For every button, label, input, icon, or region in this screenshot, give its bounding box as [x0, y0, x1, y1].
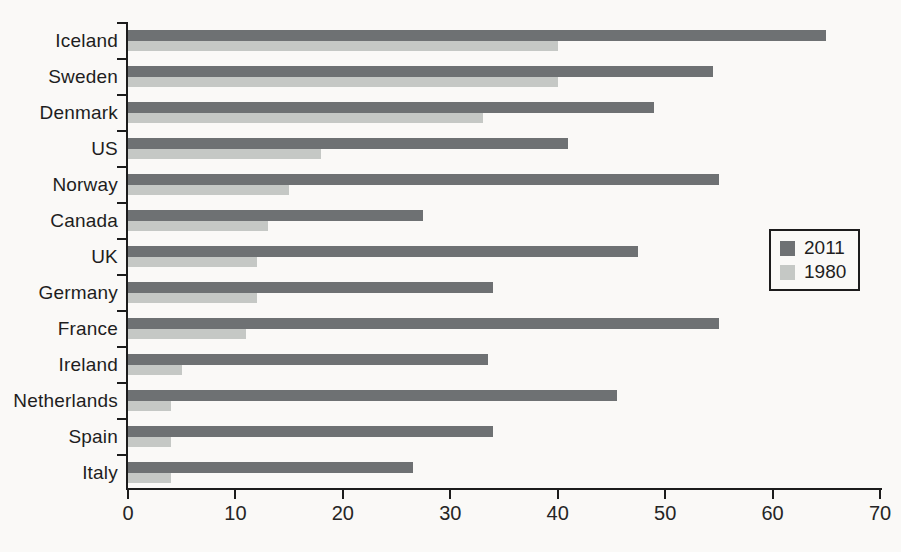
- bar-1980-ireland: [128, 365, 182, 375]
- x-axis-tick: [127, 490, 129, 499]
- bar-2011-iceland: [128, 30, 826, 41]
- category-label-norway: Norway: [0, 173, 118, 197]
- bar-1980-denmark: [128, 113, 483, 123]
- bar-2011-denmark: [128, 102, 654, 113]
- legend-label-1980: 1980: [804, 260, 846, 284]
- bar-1980-sweden: [128, 77, 558, 87]
- bar-2011-italy: [128, 462, 413, 473]
- x-axis-tick: [879, 490, 881, 499]
- bar-2011-sweden: [128, 66, 713, 77]
- y-axis-tick: [117, 454, 126, 456]
- legend-entry-2011: 2011: [780, 236, 846, 260]
- category-label-us: US: [0, 137, 118, 161]
- bar-2011-ireland: [128, 354, 488, 365]
- x-tick-label-60: 60: [761, 502, 783, 525]
- legend-swatch-1980: [780, 265, 795, 280]
- category-label-italy: Italy: [0, 461, 118, 485]
- bar-1980-netherlands: [128, 401, 171, 411]
- category-label-sweden: Sweden: [0, 65, 118, 89]
- bar-1980-france: [128, 329, 246, 339]
- bar-chart: IcelandSwedenDenmarkUSNorwayCanadaUKGerm…: [0, 0, 901, 552]
- y-axis-tick: [117, 310, 126, 312]
- category-label-netherlands: Netherlands: [0, 389, 118, 413]
- category-label-iceland: Iceland: [0, 29, 118, 53]
- y-axis-tick: [117, 382, 126, 384]
- bar-1980-canada: [128, 221, 268, 231]
- x-tick-label-10: 10: [224, 502, 246, 525]
- legend-entry-1980: 1980: [780, 260, 846, 284]
- x-axis-tick: [557, 490, 559, 499]
- x-tick-label-70: 70: [869, 502, 891, 525]
- x-tick-label-20: 20: [332, 502, 354, 525]
- y-axis-tick: [117, 22, 126, 24]
- y-axis-tick: [117, 94, 126, 96]
- bar-2011-spain: [128, 426, 493, 437]
- category-label-denmark: Denmark: [0, 101, 118, 125]
- bar-2011-norway: [128, 174, 719, 185]
- bar-1980-spain: [128, 437, 171, 447]
- category-label-germany: Germany: [0, 281, 118, 305]
- x-axis-tick: [772, 490, 774, 499]
- legend-swatch-2011: [780, 241, 795, 256]
- bar-2011-netherlands: [128, 390, 617, 401]
- x-axis-tick: [449, 490, 451, 499]
- x-tick-label-30: 30: [439, 502, 461, 525]
- bar-2011-us: [128, 138, 568, 149]
- y-axis-tick: [117, 418, 126, 420]
- category-label-france: France: [0, 317, 118, 341]
- bar-1980-germany: [128, 293, 257, 303]
- bar-2011-germany: [128, 282, 493, 293]
- y-axis-tick: [117, 202, 126, 204]
- bar-1980-us: [128, 149, 321, 159]
- bar-1980-uk: [128, 257, 257, 267]
- bar-1980-norway: [128, 185, 289, 195]
- bar-2011-france: [128, 318, 719, 329]
- category-label-canada: Canada: [0, 209, 118, 233]
- y-axis-tick: [117, 238, 126, 240]
- category-label-uk: UK: [0, 245, 118, 269]
- x-axis-tick: [664, 490, 666, 499]
- legend-label-2011: 2011: [804, 236, 845, 260]
- y-axis-tick: [117, 58, 126, 60]
- x-tick-label-0: 0: [122, 502, 133, 525]
- x-tick-label-50: 50: [654, 502, 676, 525]
- x-tick-label-40: 40: [547, 502, 569, 525]
- y-axis-tick: [117, 166, 126, 168]
- x-axis-tick: [234, 490, 236, 499]
- legend: 2011 1980: [769, 229, 860, 291]
- y-axis-tick: [117, 274, 126, 276]
- y-axis-tick: [117, 346, 126, 348]
- bar-1980-italy: [128, 473, 171, 483]
- category-label-spain: Spain: [0, 425, 118, 449]
- bar-1980-iceland: [128, 41, 558, 51]
- category-label-ireland: Ireland: [0, 353, 118, 377]
- bar-2011-uk: [128, 246, 638, 257]
- x-axis-line: [126, 488, 882, 490]
- y-axis-tick: [117, 130, 126, 132]
- bar-2011-canada: [128, 210, 423, 221]
- x-axis-tick: [342, 490, 344, 499]
